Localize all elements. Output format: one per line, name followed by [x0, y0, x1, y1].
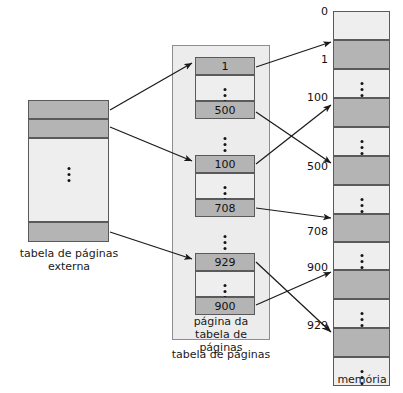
arrow-pt1-to-mem1 — [256, 42, 331, 67]
arrow-outerlast-to-pt929 — [110, 232, 192, 259]
arrow-outer1-to-pt1 — [110, 63, 192, 110]
mapping-arrows — [0, 0, 403, 393]
arrow-outer2-to-pt100 — [110, 127, 192, 161]
arrow-pt929-to-mem929 — [256, 262, 331, 332]
arrow-pt708-to-mem708 — [256, 208, 331, 218]
arrow-pt900-to-mem900 — [256, 272, 331, 305]
diagram-canvas: tabela de páginas externa 1 500 100 708 … — [0, 0, 403, 393]
